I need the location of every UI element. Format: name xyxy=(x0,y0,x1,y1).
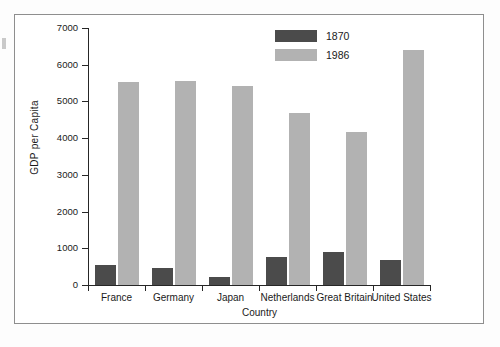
legend-item-1870: 1870 xyxy=(275,28,385,47)
y-tick-label: 3000 xyxy=(32,170,78,180)
bar xyxy=(346,132,367,285)
scan-edge-artifact xyxy=(2,38,6,49)
bar xyxy=(118,82,139,285)
x-tick xyxy=(373,286,374,291)
bar xyxy=(323,252,344,285)
x-tick xyxy=(88,286,89,291)
legend-swatch-1870 xyxy=(275,30,317,42)
x-tick xyxy=(145,286,146,291)
y-tick-label: 5000 xyxy=(32,96,78,106)
legend-label-1986: 1986 xyxy=(326,48,349,62)
bar xyxy=(289,113,310,285)
bar xyxy=(266,257,287,285)
bar xyxy=(152,268,173,285)
x-tick xyxy=(202,286,203,291)
y-tick-label: 4000 xyxy=(32,133,78,143)
legend-item-1986: 1986 xyxy=(275,47,385,66)
y-tick-label: 6000 xyxy=(32,60,78,70)
y-tick-label: 1000 xyxy=(32,243,78,253)
y-tick-label: 0 xyxy=(32,280,78,290)
x-tick xyxy=(259,286,260,291)
plot-area xyxy=(88,28,430,285)
x-tick xyxy=(430,286,431,291)
y-tick-label: 2000 xyxy=(32,207,78,217)
bar xyxy=(232,86,253,285)
x-tick xyxy=(316,286,317,291)
x-axis-title: Country xyxy=(88,307,431,318)
chart-figure: GDP per Capita Country 01000200030004000… xyxy=(0,0,500,347)
bar xyxy=(380,260,401,285)
bar xyxy=(95,265,116,285)
legend-swatch-1986 xyxy=(275,49,317,61)
bar xyxy=(175,81,196,285)
bar xyxy=(403,50,424,285)
bar xyxy=(209,277,230,285)
y-tick-label: 7000 xyxy=(32,23,78,33)
x-category-label: United States xyxy=(359,292,444,303)
chart-legend: 1870 1986 xyxy=(275,28,385,66)
legend-label-1870: 1870 xyxy=(326,29,349,43)
